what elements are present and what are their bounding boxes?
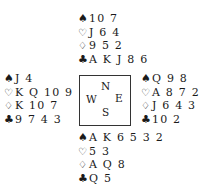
south-hearts: ♡5 3 [78,145,164,159]
heart-icon: ♡ [78,26,89,40]
spade-icon: ♠ [78,12,89,26]
west-clubs: ♣9 7 4 3 [4,113,73,127]
compass-west: W [86,94,97,105]
south-hand: ♠A K 6 5 3 2 ♡5 3 ♢A Q 8 ♣Q 5 [78,131,164,185]
west-spades: ♠J 4 [4,72,73,86]
club-icon: ♣ [141,113,152,127]
south-clubs: ♣Q 5 [78,172,164,186]
east-hand: ♠Q 9 8 ♡A 8 7 2 ♢J 6 4 3 ♣10 2 [141,72,200,126]
club-icon: ♣ [78,172,89,186]
north-diamonds: ♢9 5 2 [78,39,148,53]
heart-icon: ♡ [141,86,152,100]
diamond-icon: ♢ [141,99,152,113]
heart-icon: ♡ [4,86,15,100]
compass-south: S [102,107,109,118]
spade-icon: ♠ [78,131,89,145]
north-hearts: ♡J 6 4 [78,26,148,40]
east-diamonds: ♢J 6 4 3 [141,99,200,113]
south-diamonds: ♢A Q 8 [78,158,164,172]
south-spades: ♠A K 6 5 3 2 [78,131,164,145]
west-hand: ♠J 4 ♡K Q 10 9 ♢K 10 7 ♣9 7 4 3 [4,72,73,126]
compass-box: N W E S [79,75,131,126]
west-hearts: ♡K Q 10 9 [4,86,73,100]
east-spades: ♠Q 9 8 [141,72,200,86]
diamond-icon: ♢ [78,158,89,172]
east-clubs: ♣10 2 [141,113,200,127]
north-hand: ♠10 7 ♡J 6 4 ♢9 5 2 ♣A K J 8 6 [78,12,148,66]
compass-north: N [101,81,110,92]
heart-icon: ♡ [78,145,89,159]
spade-icon: ♠ [4,72,15,86]
spade-icon: ♠ [141,72,152,86]
compass-east: E [115,93,123,104]
north-spades: ♠10 7 [78,12,148,26]
east-hearts: ♡A 8 7 2 [141,86,200,100]
club-icon: ♣ [4,113,15,127]
diamond-icon: ♢ [4,99,15,113]
north-clubs: ♣A K J 8 6 [78,53,148,67]
club-icon: ♣ [78,53,89,67]
west-diamonds: ♢K 10 7 [4,99,73,113]
diamond-icon: ♢ [78,39,89,53]
